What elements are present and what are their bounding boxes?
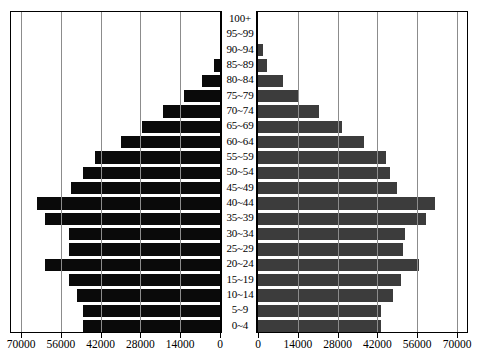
bar-row <box>258 119 467 134</box>
bar-row <box>11 257 220 272</box>
bar-row <box>258 104 467 119</box>
bar-row <box>11 43 220 58</box>
bar-male-85_89 <box>214 59 220 71</box>
bar-row <box>258 196 467 211</box>
bar-male-40_44 <box>37 197 220 209</box>
bar-row <box>11 104 220 119</box>
gridline <box>298 12 299 332</box>
male-bars <box>11 12 220 332</box>
bar-female-20_24 <box>258 259 419 271</box>
bar-row <box>11 303 220 318</box>
age-group-label: 90~94 <box>222 42 258 57</box>
age-group-label: 40~44 <box>222 195 258 210</box>
gridline <box>180 12 181 332</box>
bar-row <box>258 27 467 42</box>
bar-female-5_9 <box>258 305 381 317</box>
age-group-label: 20~24 <box>222 256 258 271</box>
age-group-label: 5~9 <box>222 302 258 317</box>
age-group-label: 80~84 <box>222 72 258 87</box>
age-group-label: 15~19 <box>222 272 258 287</box>
gridline <box>457 12 458 332</box>
bar-row <box>11 181 220 196</box>
bar-row <box>11 211 220 226</box>
gridline <box>338 12 339 332</box>
bar-male-60_64 <box>121 136 220 148</box>
bar-female-80_84 <box>258 75 283 87</box>
bar-female-45_49 <box>258 182 397 194</box>
bar-row <box>11 27 220 42</box>
axis-tick-label: 70000 <box>427 338 479 350</box>
age-group-label: 85~89 <box>222 57 258 72</box>
bar-male-45_49 <box>71 182 220 194</box>
bar-female-85_89 <box>258 59 267 71</box>
bar-male-15_19 <box>69 274 220 286</box>
bar-row <box>258 288 467 303</box>
age-group-label: 75~79 <box>222 88 258 103</box>
bar-row <box>11 273 220 288</box>
bar-row <box>258 242 467 257</box>
bar-row <box>11 12 220 27</box>
bar-row <box>258 12 467 27</box>
bar-row <box>11 89 220 104</box>
bar-row <box>11 119 220 134</box>
age-group-label: 50~54 <box>222 164 258 179</box>
bar-female-40_44 <box>258 197 435 209</box>
gridline <box>377 12 378 332</box>
age-group-label: 95~99 <box>222 26 258 41</box>
age-group-axis: 100+95~9990~9485~8980~8475~7970~7465~696… <box>221 11 257 333</box>
bar-row <box>11 227 220 242</box>
bar-female-90_94 <box>258 44 263 56</box>
bar-row <box>11 319 220 334</box>
bar-row <box>11 135 220 150</box>
bar-male-55_59 <box>95 151 220 163</box>
bar-row <box>11 196 220 211</box>
bar-male-10_14 <box>77 289 220 301</box>
bar-row <box>258 227 467 242</box>
bar-female-65_69 <box>258 121 342 133</box>
female-bars <box>258 12 467 332</box>
age-group-label: 65~69 <box>222 118 258 133</box>
age-group-label: 0~4 <box>222 318 258 333</box>
bar-row <box>258 89 467 104</box>
bar-female-25_29 <box>258 243 403 255</box>
gridline <box>417 12 418 332</box>
male-plot-panel <box>10 11 221 333</box>
bar-row <box>258 58 467 73</box>
bar-male-30_34 <box>69 228 220 240</box>
bar-male-35_39 <box>45 213 220 225</box>
age-group-label: 60~64 <box>222 134 258 149</box>
bar-row <box>258 273 467 288</box>
gridline <box>61 12 62 332</box>
bar-male-25_29 <box>69 243 220 255</box>
bar-male-80_84 <box>202 75 220 87</box>
age-group-label: 25~29 <box>222 241 258 256</box>
bar-male-75_79 <box>184 90 220 102</box>
bar-row <box>11 73 220 88</box>
bar-female-15_19 <box>258 274 401 286</box>
bar-row <box>258 135 467 150</box>
bar-male-0_4 <box>83 320 220 332</box>
bar-row <box>258 211 467 226</box>
bar-female-35_39 <box>258 213 426 225</box>
bar-row <box>258 43 467 58</box>
bar-female-30_34 <box>258 228 405 240</box>
bar-female-50_54 <box>258 167 390 179</box>
gridline <box>140 12 141 332</box>
bar-female-0_4 <box>258 320 381 332</box>
axis-tick-label: 70000 <box>0 338 51 350</box>
population-pyramid-chart: 100+95~9990~9485~8980~8475~7970~7465~696… <box>0 0 479 359</box>
age-group-label: 70~74 <box>222 103 258 118</box>
gridline <box>101 12 102 332</box>
age-group-label: 35~39 <box>222 210 258 225</box>
bar-row <box>258 165 467 180</box>
bar-female-60_64 <box>258 136 364 148</box>
gridline <box>21 12 22 332</box>
bar-male-70_74 <box>163 105 220 117</box>
bar-female-10_14 <box>258 289 393 301</box>
bar-row <box>258 319 467 334</box>
bar-female-70_74 <box>258 105 319 117</box>
bar-row <box>11 58 220 73</box>
age-group-label: 100+ <box>222 11 258 26</box>
bar-row <box>11 242 220 257</box>
age-group-label: 10~14 <box>222 287 258 302</box>
